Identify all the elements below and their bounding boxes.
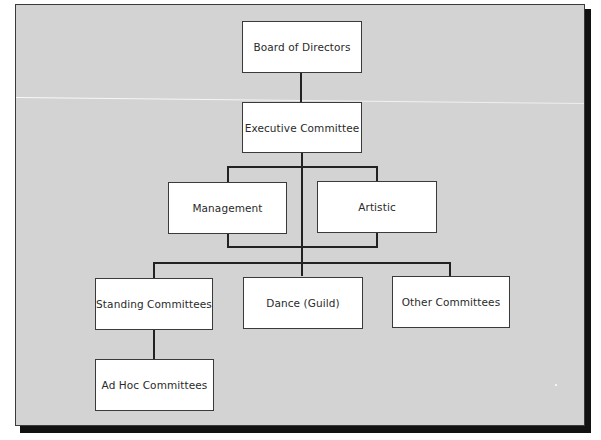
connector-artistic-top [376, 166, 378, 182]
connector-standing-drop [153, 262, 155, 278]
node-label: Executive Committee [245, 122, 360, 134]
connector-committee-bus [153, 262, 451, 264]
node-executive-committee: Executive Committee [242, 102, 362, 153]
connector-other-drop [449, 262, 451, 276]
connector-executive-trunk [301, 152, 303, 276]
connector-management-top [227, 166, 229, 182]
node-ad-hoc-committees: Ad Hoc Committees [95, 359, 214, 411]
node-dance-guild: Dance (Guild) [243, 277, 363, 329]
node-label: Ad Hoc Committees [102, 379, 208, 391]
node-label: Management [192, 202, 262, 214]
node-other-committees: Other Committees [392, 276, 510, 328]
node-board-of-directors: Board of Directors [242, 21, 362, 73]
node-management: Management [168, 182, 287, 234]
node-label: Standing Committees [96, 298, 212, 310]
connector-board-executive [300, 72, 302, 102]
node-standing-committees: Standing Committees [95, 278, 213, 330]
connector-staff-bracket-top [227, 166, 378, 168]
node-label: Dance (Guild) [266, 297, 340, 309]
connector-staff-bracket-bottom [227, 246, 378, 248]
node-artistic: Artistic [317, 181, 437, 233]
connector-standing-adhoc [153, 329, 155, 359]
node-label: Other Committees [402, 296, 501, 308]
node-label: Board of Directors [253, 41, 350, 53]
scan-artifact-speck [555, 384, 557, 386]
node-label: Artistic [358, 201, 396, 213]
